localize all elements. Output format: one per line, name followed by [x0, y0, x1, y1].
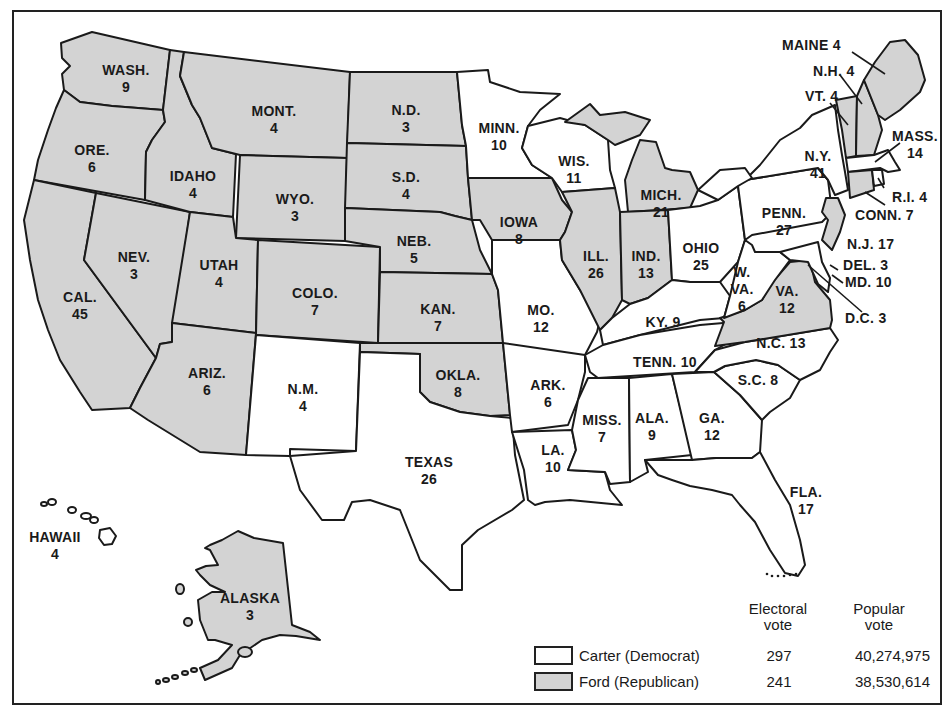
label-nj: N.J. 17	[847, 236, 894, 253]
label-kan: KAN.7	[420, 301, 455, 335]
state-florida	[645, 452, 805, 576]
label-neb: NEB.5	[397, 233, 432, 267]
label-vt: VT. 4	[805, 88, 838, 105]
label-ariz: ARIZ.6	[188, 365, 226, 399]
label-iowa: IOWA8	[500, 214, 539, 248]
label-tenn: TENN. 10	[633, 354, 697, 371]
label-nm: N.M.4	[288, 381, 319, 415]
label-mo: MO.12	[527, 302, 554, 336]
legend-name-carter: Carter (Democrat)	[579, 647, 769, 664]
label-ohio: OHIO25	[683, 240, 720, 274]
label-ark: ARK.6	[530, 377, 565, 411]
label-nc: N.C. 13	[756, 335, 806, 352]
legend-popular-ford: 38,530,614	[820, 673, 930, 690]
label-nev: NEV.3	[118, 249, 151, 283]
label-cal: CAL.45	[63, 289, 97, 323]
label-wva: W.VA.6	[730, 264, 753, 315]
label-la: LA.10	[541, 442, 564, 476]
label-mich: MICH.21	[640, 187, 681, 221]
label-ore: ORE.6	[74, 142, 109, 176]
label-del: DEL. 3	[843, 257, 888, 274]
legend-header-popular: Popularvote	[834, 601, 924, 633]
label-sd: S.D.4	[392, 169, 420, 203]
label-colo: COLO.7	[292, 285, 338, 319]
swatch-ford	[534, 672, 573, 691]
label-penn: PENN.27	[762, 205, 806, 239]
state-connecticut	[848, 170, 874, 198]
label-ill: ILL.26	[583, 248, 609, 282]
label-maine: MAINE 4	[782, 37, 841, 54]
legend-popular-carter: 40,274,975	[820, 647, 930, 664]
label-mont: MONT.4	[251, 103, 296, 137]
label-wash: WASH.9	[102, 62, 149, 96]
label-wis: WIS.11	[558, 153, 590, 187]
legend-row-ford: Ford (Republican) 241 38,530,614	[534, 670, 934, 692]
label-fla: FLA.17	[790, 484, 822, 518]
label-ala: ALA.9	[635, 410, 669, 444]
label-idaho: IDAHO4	[170, 168, 217, 202]
legend-name-ford: Ford (Republican)	[579, 673, 769, 690]
legend-row-carter: Carter (Democrat) 297 40,274,975	[534, 644, 934, 666]
label-va: VA.12	[775, 283, 798, 317]
label-utah: UTAH4	[199, 257, 238, 291]
label-ga: GA.12	[699, 410, 725, 444]
label-miss: MISS.7	[582, 412, 622, 446]
label-conn: CONN. 7	[855, 207, 914, 224]
label-sc: S.C. 8	[738, 372, 779, 389]
legend-electoral-carter: 297	[749, 647, 809, 664]
label-alaska: ALASKA3	[220, 590, 280, 624]
label-okla: OKLA.8	[435, 367, 480, 401]
label-hawaii: HAWAII4	[29, 529, 81, 563]
legend: Electoralvote Popularvote Carter (Democr…	[534, 598, 934, 698]
label-nd: N.D.3	[391, 102, 420, 136]
label-md: MD. 10	[845, 274, 892, 291]
label-ny: N.Y.41	[805, 148, 832, 182]
label-dc: D.C. 3	[845, 310, 886, 327]
label-ky: KY. 9	[646, 314, 681, 331]
swatch-carter	[534, 646, 573, 665]
label-texas: TEXAS26	[405, 454, 453, 488]
label-ind: IND.13	[631, 248, 660, 282]
legend-header-electoral: Electoralvote	[738, 601, 818, 633]
label-ri: R.I. 4	[892, 189, 927, 206]
label-nh: N.H. 4	[813, 63, 854, 80]
legend-electoral-ford: 241	[749, 673, 809, 690]
label-wyo: WYO.3	[276, 191, 315, 225]
state-new-jersey	[822, 198, 845, 250]
label-mass: MASS.14	[892, 128, 938, 162]
label-minn: MINN.10	[478, 120, 519, 154]
